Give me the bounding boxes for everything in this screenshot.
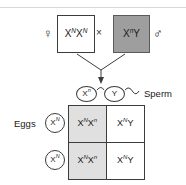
female-symbol: ♀ [43,27,53,40]
female-allele2-superscript: N [83,27,88,34]
eggs-label: Eggs [14,119,36,129]
punnett-cell-r2c2-genotype: XNY [117,156,133,165]
punnett-square-diagram: ♀ XNXN × XnY ♂ Xn Y Sperm Eggs XN XN XNX… [0,0,186,185]
r2c1-sup2: n [94,154,97,160]
sperm-gamete-y-label: Y [112,90,117,98]
male-parent-genotype-box: XnY [113,15,150,53]
egg-gamete-row1: XN [45,113,65,133]
egg-gamete-row2-label: XN [50,156,59,164]
egg-row2-superscript: N [56,153,60,159]
sperm-xn-superscript: n [88,87,91,93]
cross-symbol: × [96,28,102,38]
punnett-cell-r1c1: XNXn [69,106,107,143]
punnett-cell-r1c1-genotype: XNXn [77,119,97,128]
male-symbol: ♂ [153,27,163,40]
egg-gamete-row2: XN [45,150,65,170]
female-parent-genotype-box: XNXN [57,15,95,53]
r2c1-sup1: N [83,154,87,160]
sperm-gamete-xn-label: Xn [82,90,90,98]
sperm-gamete-xn: Xn [76,86,97,102]
female-parent-genotype: XNXN [65,29,88,39]
r1c2-sup1: N [123,117,127,123]
punnett-cell-r1c2: XNY [107,106,145,143]
punnett-grid: XNXn XNY XNXn XNY [68,105,145,180]
r1c1-sup1: N [83,117,87,123]
r1c1-sup2: n [94,117,97,123]
sperm-gamete-y: Y [104,86,125,102]
male-parent-genotype: XnY [123,29,140,39]
punnett-cell-r1c2-genotype: XNY [117,119,133,128]
egg-row1-superscript: N [56,116,60,122]
r2c2-sup1: N [123,154,127,160]
punnett-cell-r2c1: XNXn [69,143,107,180]
egg-gamete-row1-label: XN [50,119,59,127]
punnett-cell-r2c2: XNY [107,143,145,180]
sperm-label: Sperm [144,89,172,99]
male-allele1-superscript: n [130,27,134,34]
female-allele1-superscript: N [71,27,76,34]
punnett-cell-r2c1-genotype: XNXn [77,156,97,165]
